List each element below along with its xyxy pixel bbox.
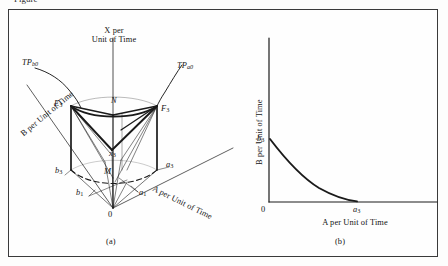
b3-connector bbox=[65, 170, 71, 175]
point-b1-sub: 1 bbox=[80, 190, 83, 197]
panel-b-tag: (b) bbox=[325, 237, 355, 246]
point-a3-sub: 3 bbox=[170, 162, 173, 169]
tp-b0-sub: b0 bbox=[32, 60, 38, 67]
panel-b-x-intercept-label: a3 bbox=[353, 205, 360, 215]
panel-b-y-axis-label-text: B per Unit of Time bbox=[255, 99, 264, 165]
panel-a-tag: (a) bbox=[106, 237, 116, 246]
cropped-caption-sliver: Figure bbox=[0, 0, 448, 5]
lower-rim-back-arc bbox=[71, 160, 157, 170]
x-axis-label-line1: X per bbox=[104, 26, 123, 35]
tp-a0-base: TP bbox=[177, 61, 187, 70]
panel-b: b3 a3 0 B per Unit of Time A per Unit of… bbox=[241, 10, 439, 256]
point-x3-sub: 3 bbox=[113, 151, 116, 158]
point-label-M: M bbox=[104, 167, 111, 176]
panel-b-origin-label: 0 bbox=[261, 205, 265, 214]
point-label-b1: b1 bbox=[76, 188, 83, 198]
point-label-N: N bbox=[111, 96, 117, 105]
figure-root: Figure bbox=[0, 0, 448, 266]
point-label-F3: F3 bbox=[161, 104, 169, 114]
panel-b-x-axis-label: A per Unit of Time bbox=[295, 218, 415, 227]
panel-a-origin-label: 0 bbox=[108, 210, 112, 219]
x-axis-label: X per Unit of Time bbox=[83, 26, 145, 45]
panel-b-a3-sub: 3 bbox=[357, 207, 360, 214]
panel-b-y-axis-label: B per Unit of Time bbox=[255, 99, 264, 165]
base-b1-tick bbox=[89, 190, 95, 196]
tp-b0-base: TP bbox=[22, 58, 32, 67]
tp-b0-label: TPb0 bbox=[22, 58, 38, 68]
panel-b-x-axis-label-text: A per Unit of Time bbox=[322, 218, 388, 227]
point-F3-sub: 3 bbox=[166, 106, 169, 113]
x-axis-label-line2: Unit of Time bbox=[92, 35, 136, 44]
point-N-base: N bbox=[111, 96, 117, 105]
ridge-e3-x3 bbox=[71, 106, 112, 150]
base-a1-line bbox=[119, 178, 138, 192]
point-label-a1: a1 bbox=[139, 188, 146, 198]
point-a1-sub: 1 bbox=[143, 190, 146, 197]
transformation-curve bbox=[270, 139, 357, 201]
fan-f3-3 bbox=[115, 106, 157, 182]
ridge-x3-f3 bbox=[112, 106, 157, 150]
point-b3-sub: 3 bbox=[59, 168, 62, 175]
point-label-b3: b3 bbox=[55, 166, 62, 176]
point-label-x3: x3 bbox=[109, 149, 116, 159]
base-a1-tick bbox=[131, 186, 138, 192]
panel-a: X per Unit of Time TPb0 TPa0 E3 N F3 bbox=[9, 10, 241, 256]
tp-a0-label: TPa0 bbox=[177, 61, 193, 71]
point-M-base: M bbox=[104, 167, 111, 176]
panel-a-drawing bbox=[9, 10, 241, 258]
cropped-caption-text: Figure bbox=[14, 0, 38, 4]
point-label-a3: a3 bbox=[166, 160, 173, 170]
figure-frame: X per Unit of Time TPb0 TPa0 E3 N F3 bbox=[8, 9, 438, 257]
b-axis-line bbox=[27, 85, 113, 208]
tp-a0-sub: a0 bbox=[187, 63, 193, 70]
